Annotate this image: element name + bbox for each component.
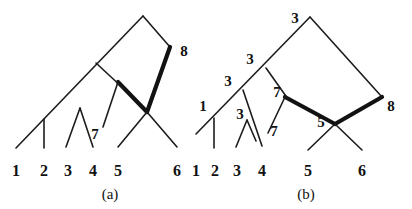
leaf-a-2: 2 (40, 162, 48, 179)
edge-a-junction-right (96, 63, 124, 89)
edge-a-apex-right (143, 16, 170, 47)
edge-b-bold-5-7 (285, 97, 335, 124)
edge-b-apex-right (310, 17, 382, 97)
tree-figure: 8 7 1 2 3 4 5 6 (a) (0, 0, 412, 209)
edge-b-junction-leaf4 (243, 90, 262, 146)
label-b-7-upper: 7 (273, 84, 281, 100)
panel-a-group: 8 7 1 2 3 4 5 6 (a) (12, 16, 188, 203)
edge-a-cross-leaf6 (147, 112, 177, 147)
edge-a-7-leg (103, 82, 118, 127)
leaf-a-5: 5 (114, 162, 122, 179)
figure-canvas: 8 7 1 2 3 4 5 6 (a) (0, 0, 412, 209)
panel-b-group: 3 3 3 1 3 7 7 5 8 1 2 3 4 5 6 (b) (192, 10, 395, 203)
edge-b-inner-left (236, 120, 247, 147)
label-b-inner-3: 3 (236, 106, 244, 122)
edge-a-spine (16, 16, 143, 148)
leaf-a-1: 1 (12, 162, 20, 179)
leaf-a-4: 4 (89, 162, 97, 179)
edge-b-bold-8-5 (335, 97, 382, 124)
edge-a-cross-leaf5 (118, 112, 147, 147)
label-b-5: 5 (317, 114, 325, 130)
edge-b-spine (196, 17, 310, 134)
caption-b: (b) (297, 186, 315, 203)
leaf-b-6: 6 (358, 162, 366, 179)
label-b-top-3: 3 (291, 10, 299, 26)
leaf-b-4: 4 (258, 162, 266, 179)
label-b-low-3: 3 (224, 73, 232, 89)
label-b-8: 8 (387, 98, 395, 114)
edge-a-bold-8 (147, 47, 170, 112)
leaf-b-1: 1 (192, 162, 200, 179)
leaf-b-5: 5 (304, 162, 312, 179)
edge-b-5-leaf6 (335, 124, 362, 150)
leaf-a-3: 3 (64, 162, 72, 179)
edge-a-cherry-left (66, 108, 80, 147)
label-a-7: 7 (91, 126, 99, 142)
label-b-7-lower: 7 (270, 123, 278, 139)
leaf-a-6: 6 (173, 162, 181, 179)
label-b-1: 1 (199, 98, 207, 114)
caption-a: (a) (102, 186, 119, 203)
leaf-b-2: 2 (211, 162, 219, 179)
label-b-mid-3: 3 (246, 51, 254, 67)
label-a-8: 8 (180, 43, 188, 59)
leaf-b-3: 3 (233, 162, 241, 179)
